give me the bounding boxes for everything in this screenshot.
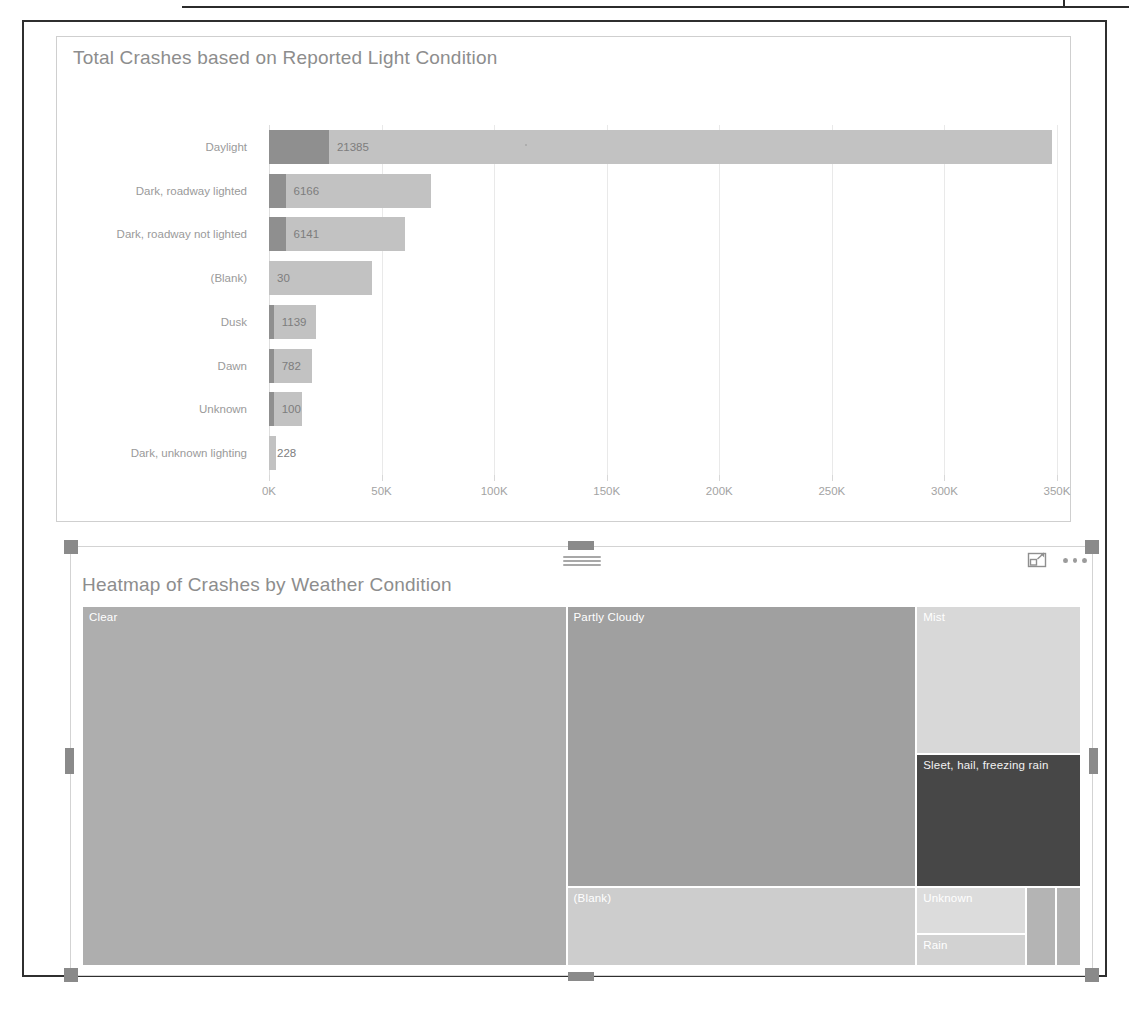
treemap-tile[interactable]: Rain xyxy=(916,934,1026,966)
resize-handle-left[interactable] xyxy=(65,748,74,774)
category-label: Daylight xyxy=(205,141,247,153)
resize-handle-bottom-right[interactable] xyxy=(1085,968,1099,982)
bar-row[interactable]: 30 xyxy=(269,261,372,295)
bar-row[interactable]: 782 xyxy=(269,349,312,383)
bar-segment-highlight[interactable] xyxy=(269,392,274,426)
treemap-tile[interactable] xyxy=(1026,887,1056,966)
value-axis: 0K50K100K150K200K250K300K350K xyxy=(269,475,1057,515)
bar-row[interactable]: 228 xyxy=(269,436,276,470)
axis-tick-label: 350K xyxy=(1044,485,1071,497)
bar-row[interactable]: 6166 xyxy=(269,174,431,208)
bar-value-label: 6141 xyxy=(294,228,320,240)
treemap-tile-label: Clear xyxy=(89,611,117,623)
axis-tick-label: 200K xyxy=(706,485,733,497)
bar-value-label: 782 xyxy=(282,360,301,372)
resize-handle-right[interactable] xyxy=(1089,748,1098,774)
bar-segment-highlight[interactable] xyxy=(269,174,286,208)
visual-drag-handle[interactable] xyxy=(563,556,601,565)
top-divider-rule xyxy=(182,6,1129,8)
bar-segment-highlight[interactable] xyxy=(269,305,274,339)
bar-row[interactable]: 100 xyxy=(269,392,302,426)
bar-chart-title: Total Crashes based on Reported Light Co… xyxy=(73,47,498,69)
treemap-tile[interactable]: Unknown xyxy=(916,887,1026,934)
gridline xyxy=(719,125,720,475)
axis-tick-label: 0K xyxy=(262,485,276,497)
data-point-marker xyxy=(525,144,527,146)
axis-tick xyxy=(832,475,833,481)
treemap-tile[interactable]: Mist xyxy=(916,606,1081,754)
treemap-tile[interactable]: Sleet, hail, freezing rain xyxy=(916,754,1081,887)
bar-value-label: 6166 xyxy=(294,185,320,197)
bar-row[interactable]: 1139 xyxy=(269,305,316,339)
axis-tick-label: 100K xyxy=(481,485,508,497)
treemap-visual[interactable]: Heatmap of Crashes by Weather Condition … xyxy=(70,546,1093,976)
axis-tick xyxy=(607,475,608,481)
treemap-tile-label: Partly Cloudy xyxy=(574,611,645,623)
resize-handle-bottom[interactable] xyxy=(568,972,594,981)
category-label: (Blank) xyxy=(211,272,247,284)
bar-segment-highlight[interactable] xyxy=(269,130,329,164)
resize-handle-top[interactable] xyxy=(568,541,594,550)
axis-tick xyxy=(719,475,720,481)
gridline xyxy=(1057,125,1058,475)
resize-handle-bottom-left[interactable] xyxy=(64,968,78,982)
top-divider-tick xyxy=(1063,0,1065,8)
treemap-tile[interactable]: (Blank) xyxy=(567,887,917,966)
gridline xyxy=(944,125,945,475)
bar-segment-total[interactable] xyxy=(269,130,1052,164)
bar-chart-visual[interactable]: Total Crashes based on Reported Light Co… xyxy=(56,36,1071,522)
treemap-tile-label: Sleet, hail, freezing rain xyxy=(923,759,1048,771)
bar-value-label: 21385 xyxy=(337,141,369,153)
treemap-tile[interactable]: Partly Cloudy xyxy=(567,606,917,887)
bar-value-label: 100 xyxy=(282,403,301,415)
axis-tick xyxy=(382,475,383,481)
gridline xyxy=(832,125,833,475)
axis-tick-label: 300K xyxy=(931,485,958,497)
bar-segment-highlight[interactable] xyxy=(269,217,286,251)
axis-tick xyxy=(494,475,495,481)
treemap-tile-label: Rain xyxy=(923,939,947,951)
gridline xyxy=(607,125,608,475)
category-label: Dawn xyxy=(218,360,247,372)
focus-mode-icon[interactable] xyxy=(1025,549,1049,571)
category-label: Dark, roadway lighted xyxy=(136,185,247,197)
axis-tick xyxy=(944,475,945,481)
treemap-tile[interactable]: Clear xyxy=(82,606,567,966)
bar-value-label: 228 xyxy=(277,447,296,459)
page-root: Total Crashes based on Reported Light Co… xyxy=(0,0,1129,1010)
treemap-tile-label: (Blank) xyxy=(574,892,612,904)
treemap-title: Heatmap of Crashes by Weather Condition xyxy=(82,574,452,596)
treemap-tile[interactable] xyxy=(1056,887,1081,966)
resize-handle-top-right[interactable] xyxy=(1085,540,1099,554)
category-label: Dusk xyxy=(221,316,247,328)
gridline xyxy=(494,125,495,475)
treemap-tiles-area[interactable]: ClearPartly Cloudy(Blank)MistSleet, hail… xyxy=(82,606,1081,966)
report-canvas-frame: Total Crashes based on Reported Light Co… xyxy=(22,20,1107,977)
bar-value-label: 30 xyxy=(277,272,290,284)
resize-handle-top-left[interactable] xyxy=(64,540,78,554)
category-label: Dark, roadway not lighted xyxy=(117,228,247,240)
bar-value-label: 1139 xyxy=(282,316,307,328)
visual-toolbar[interactable] xyxy=(1025,544,1087,576)
axis-tick xyxy=(1057,475,1058,481)
axis-tick-label: 150K xyxy=(593,485,620,497)
more-options-icon[interactable] xyxy=(1063,549,1087,571)
bar-chart-plot-area: 2138561666141301139782100228 xyxy=(269,125,1057,475)
treemap-tile-label: Unknown xyxy=(923,892,972,904)
bar-segment-total[interactable] xyxy=(269,436,276,470)
bar-segment-total[interactable] xyxy=(269,217,405,251)
bar-row[interactable]: 6141 xyxy=(269,217,405,251)
axis-tick-label: 250K xyxy=(818,485,845,497)
axis-tick xyxy=(269,475,270,481)
category-label: Dark, unknown lighting xyxy=(131,447,247,459)
category-label: Unknown xyxy=(199,403,247,415)
category-axis-labels: DaylightDark, roadway lightedDark, roadw… xyxy=(57,125,257,475)
bar-segment-highlight[interactable] xyxy=(269,349,274,383)
axis-tick-label: 50K xyxy=(371,485,391,497)
bar-row[interactable]: 21385 xyxy=(269,130,1052,164)
treemap-tile-label: Mist xyxy=(923,611,945,623)
